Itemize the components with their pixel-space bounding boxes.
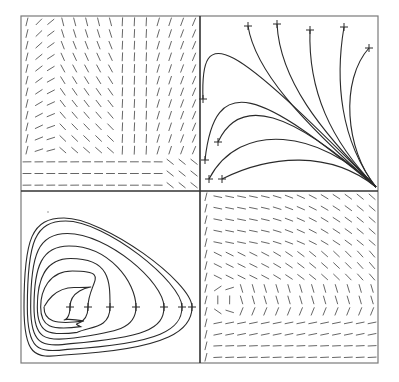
closed-orbit [44, 287, 91, 322]
field-segment [273, 196, 281, 198]
field-segment [72, 148, 78, 153]
field-segment [181, 123, 184, 131]
field-segment [157, 30, 159, 38]
field-segment [276, 308, 279, 315]
field-segment [179, 183, 185, 188]
field-segment [214, 196, 222, 198]
closed-orbit [24, 218, 192, 356]
field-segment [169, 41, 172, 49]
field-segment [324, 285, 326, 293]
field-segment [73, 53, 76, 60]
field-segment [60, 112, 65, 118]
field-segment [169, 65, 172, 73]
field-segment [273, 334, 281, 336]
field-segment [61, 77, 65, 84]
field-segment [169, 30, 172, 38]
field-segment [97, 77, 101, 84]
field-segment [312, 296, 314, 304]
field-segment [215, 309, 222, 314]
field-segment [369, 240, 375, 245]
field-segment [26, 100, 28, 108]
start-marker [205, 175, 213, 183]
field-segment [205, 239, 207, 247]
field-segment [321, 322, 329, 324]
field-segment [98, 18, 100, 26]
field-segment [96, 124, 102, 130]
field-segment [346, 274, 352, 280]
field-segment [214, 264, 221, 268]
field-segment [47, 90, 54, 94]
field-segment [205, 353, 207, 361]
field-segment [285, 241, 292, 244]
field-segment [370, 263, 375, 269]
field-segment [238, 242, 246, 244]
field-segment [181, 111, 184, 119]
field-segment [72, 136, 78, 142]
field-segment [108, 124, 114, 130]
dot-marker [47, 211, 49, 213]
field-segment [157, 53, 159, 61]
field-segment [335, 308, 338, 315]
field-segment [84, 100, 89, 106]
field-segment [368, 322, 376, 324]
field-segment [298, 263, 304, 268]
field-segment [26, 123, 28, 131]
field-segment [309, 218, 316, 222]
field-segment [157, 41, 159, 49]
start-marker [340, 23, 348, 31]
panel-top-left-direction-field [23, 18, 197, 188]
field-segment [370, 274, 375, 280]
field-segment [215, 286, 222, 291]
field-segment [321, 334, 329, 336]
field-segment [226, 287, 234, 289]
field-segment [345, 206, 352, 211]
field-segment [261, 207, 269, 209]
field-segment [369, 229, 375, 234]
field-segment [368, 334, 376, 336]
field-segment [346, 263, 352, 269]
field-segment [181, 41, 184, 49]
field-segment [85, 65, 89, 72]
field-segment [261, 230, 269, 232]
field-segment [181, 65, 184, 72]
field-segment [240, 308, 243, 315]
field-segment [181, 53, 184, 61]
field-segment [309, 229, 316, 233]
field-segment [346, 251, 352, 257]
field-segment [108, 148, 114, 153]
field-segment [85, 30, 87, 38]
field-segment [214, 219, 222, 221]
field-segment [358, 251, 363, 257]
field-segment [205, 250, 207, 258]
field-segment [97, 41, 100, 49]
field-segment [35, 125, 42, 128]
field-segment [238, 334, 246, 336]
field-segment [262, 275, 269, 279]
start-marker [106, 303, 114, 311]
field-segment [286, 275, 293, 279]
field-segment [109, 41, 112, 49]
field-segment [35, 137, 42, 140]
field-segment [193, 77, 196, 84]
field-segment [36, 78, 42, 83]
field-segment [169, 53, 172, 61]
field-segment [193, 53, 196, 60]
closed-orbit [27, 221, 182, 351]
trajectory-curve [340, 27, 376, 187]
start-marker [214, 138, 222, 146]
field-segment [333, 240, 340, 244]
field-segment [47, 114, 54, 117]
field-segment [333, 206, 340, 210]
field-segment [193, 30, 196, 37]
field-segment [264, 285, 266, 293]
field-segment [26, 135, 28, 143]
field-segment [214, 322, 222, 324]
field-segment [169, 146, 172, 154]
field-segment [72, 112, 77, 118]
field-segment [214, 275, 221, 279]
field-segment [322, 274, 328, 279]
field-segment [181, 30, 184, 37]
start-marker [84, 303, 92, 311]
field-segment [85, 77, 89, 84]
field-segment [73, 77, 77, 84]
